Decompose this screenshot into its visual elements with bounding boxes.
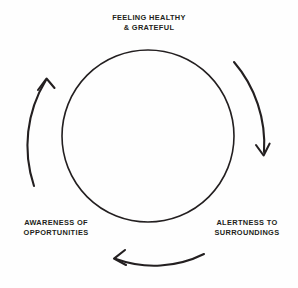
stage-label-awareness-of-opportunities-line2: OPPORTUNITIES — [4, 228, 108, 238]
stage-label-awareness-of-opportunities: AWARENESS OF OPPORTUNITIES — [4, 218, 108, 237]
arrow-bottom — [114, 250, 204, 266]
arrow-bottom-head-icon — [114, 250, 126, 265]
stage-label-alertness-to-surroundings-line1: ALERTNESS TO — [196, 218, 298, 228]
stage-label-feeling-healthy: FEELING HEALTHY & GRATEFUL — [0, 13, 298, 32]
arrow-top-right-head-icon — [256, 144, 270, 156]
arrow-bottom-arc — [116, 254, 204, 266]
stage-label-feeling-healthy-line1: FEELING HEALTHY — [0, 13, 298, 23]
stage-label-alertness-to-surroundings: ALERTNESS TO SURROUNDINGS — [196, 218, 298, 237]
cycle-circle — [62, 50, 234, 222]
stage-label-alertness-to-surroundings-line2: SURROUNDINGS — [196, 228, 298, 238]
stage-label-feeling-healthy-line2: & GRATEFUL — [0, 23, 298, 33]
arrow-top-left-arc — [27, 80, 46, 186]
stage-label-awareness-of-opportunities-line1: AWARENESS OF — [4, 218, 108, 228]
arrow-top-right — [234, 62, 270, 156]
arrow-top-right-arc — [234, 62, 264, 152]
cycle-diagram-canvas: FEELING HEALTHY & GRATEFUL AWARENESS OF … — [0, 0, 298, 288]
arrow-top-left — [27, 79, 54, 187]
cycle-diagram-graphic — [0, 0, 298, 288]
arrow-top-left-head-icon — [38, 79, 55, 91]
